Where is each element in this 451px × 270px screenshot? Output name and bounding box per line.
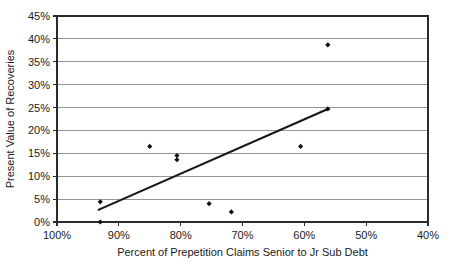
chart-canvas: 0%5%10%15%20%25%30%35%40%45% 100%90%80%7… xyxy=(0,0,451,270)
y-tick-label: 45% xyxy=(28,10,50,22)
scatter-chart: 0%5%10%15%20%25%30%35%40%45% 100%90%80%7… xyxy=(0,0,451,270)
y-tick-label: 5% xyxy=(34,193,50,205)
y-tick-label: 20% xyxy=(28,124,50,136)
x-tick-label: 90% xyxy=(108,229,130,241)
x-axis-title: Percent of Prepetition Claims Senior to … xyxy=(117,246,368,258)
x-tick-label: 60% xyxy=(293,229,315,241)
y-tick-label: 40% xyxy=(28,33,50,45)
x-tick-label: 80% xyxy=(170,229,192,241)
y-tick-label: 10% xyxy=(28,170,50,182)
x-tick-label: 100% xyxy=(43,229,71,241)
y-tick-label: 30% xyxy=(28,79,50,91)
y-tick-label: 35% xyxy=(28,56,50,68)
x-tick-label: 40% xyxy=(417,229,439,241)
x-tick-label: 50% xyxy=(355,229,377,241)
y-tick-label: 15% xyxy=(28,147,50,159)
y-tick-label: 0% xyxy=(34,216,50,228)
x-tick-label: 70% xyxy=(231,229,253,241)
y-tick-label: 25% xyxy=(28,102,50,114)
y-axis-title: Present Value of Recoveries xyxy=(4,49,16,188)
